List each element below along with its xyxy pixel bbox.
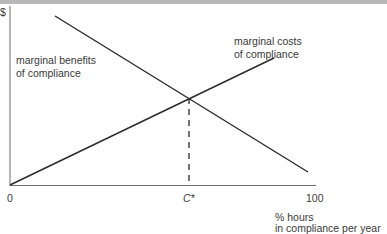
x-axis-label-line2: in compliance per year <box>275 222 381 234</box>
x-tick-origin: 0 <box>7 192 13 204</box>
benefits-label-line2: of compliance <box>16 67 81 79</box>
benefits-label-line1: marginal benefits <box>16 54 96 66</box>
x-tick-c-star: C* <box>183 192 195 204</box>
costs-label-line2: of compliance <box>234 48 299 60</box>
x-tick-100: 100 <box>306 192 324 204</box>
y-axis-label: $ <box>0 6 6 18</box>
costs-label-line1: marginal costs <box>234 35 302 47</box>
